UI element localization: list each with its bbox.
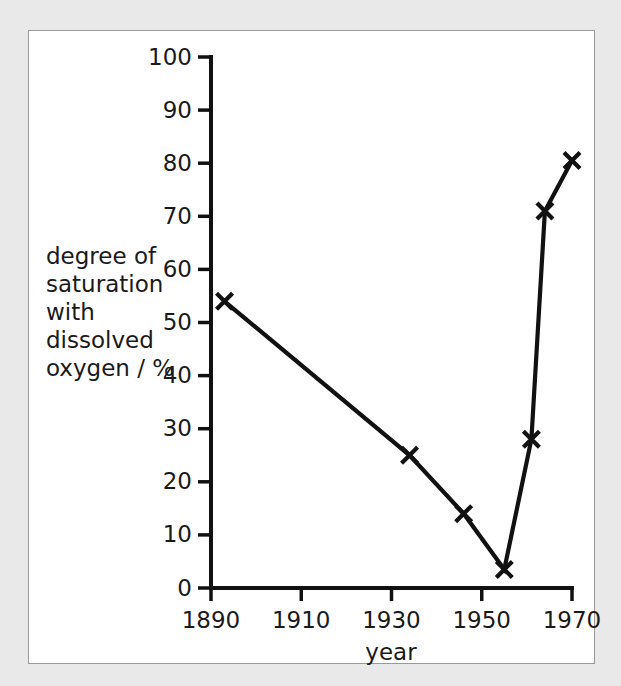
figure-panel — [28, 30, 595, 664]
